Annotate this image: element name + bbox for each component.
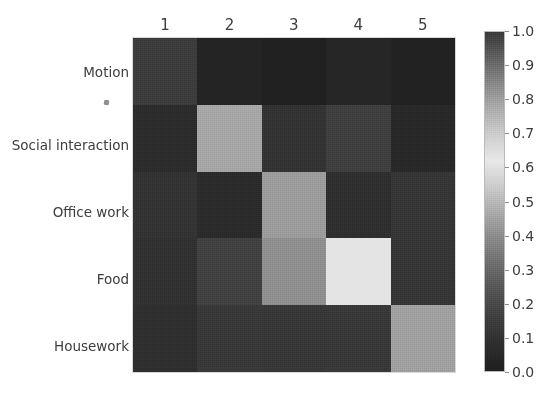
x-tick-2: 2 [197, 14, 261, 36]
colorbar-tick-label-0.7: 0.7 [512, 126, 534, 140]
x-tick-1: 1 [133, 14, 197, 36]
colorbar-tick-label-1.0: 1.0 [512, 24, 534, 38]
colorbar-tick-label-0.9: 0.9 [512, 58, 534, 72]
colorbar-tick-mark-0.5 [505, 202, 509, 203]
colorbar-tick-mark-0.9 [505, 65, 509, 66]
y-tick-social-interaction: Social interaction [0, 138, 129, 152]
heatmap-cell-r3c2 [197, 172, 261, 239]
stray-tick-artifact [104, 100, 110, 106]
heatmap-grid [133, 38, 455, 372]
colorbar-tick-label-0.1: 0.1 [512, 331, 534, 345]
y-tick-housework: Housework [0, 339, 129, 353]
y-axis-tick-labels: Motion Social interaction Office work Fo… [0, 38, 129, 372]
x-tick-3: 3 [262, 14, 326, 36]
colorbar-tick-mark-1.0 [505, 31, 509, 32]
heatmap-cell-r2c5 [391, 105, 455, 172]
heatmap-cell-r2c3 [262, 105, 326, 172]
colorbar-tick-mark-0.7 [505, 133, 509, 134]
colorbar-tick-mark-0.8 [505, 99, 509, 100]
heatmap-cell-r2c4 [326, 105, 390, 172]
colorbar-tick-label-0.4: 0.4 [512, 229, 534, 243]
heatmap-cell-r3c3 [262, 172, 326, 239]
heatmap-cell-r1c4 [326, 38, 390, 105]
heatmap-cell-r2c2 [197, 105, 261, 172]
colorbar [484, 31, 505, 372]
heatmap-cell-r4c2 [197, 238, 261, 305]
colorbar-tick-mark-0.6 [505, 167, 509, 168]
heatmap-cell-r1c3 [262, 38, 326, 105]
heatmap-figure: 1 2 3 4 5 Motion Social interaction Offi… [0, 0, 551, 397]
x-axis-tick-labels: 1 2 3 4 5 [133, 14, 455, 36]
heatmap-cell-r3c5 [391, 172, 455, 239]
colorbar-tick-label-0.6: 0.6 [512, 160, 534, 174]
heatmap-cell-r5c5 [391, 305, 455, 372]
colorbar-tick-mark-0.0 [505, 372, 509, 373]
heatmap-cell-r4c1 [133, 238, 197, 305]
heatmap-cell-r3c4 [326, 172, 390, 239]
y-tick-motion: Motion [0, 65, 129, 79]
heatmap-cell-r1c1 [133, 38, 197, 105]
heatmap-cell-r5c1 [133, 305, 197, 372]
heatmap-cell-r5c4 [326, 305, 390, 372]
x-tick-5: 5 [391, 14, 455, 36]
colorbar-tick-mark-0.1 [505, 338, 509, 339]
heatmap-cell-r1c5 [391, 38, 455, 105]
heatmap-cell-r2c1 [133, 105, 197, 172]
y-tick-food: Food [0, 272, 129, 286]
x-tick-4: 4 [326, 14, 390, 36]
colorbar-tick-label-0.8: 0.8 [512, 92, 534, 106]
colorbar-tick-mark-0.4 [505, 236, 509, 237]
heatmap-cell-r3c1 [133, 172, 197, 239]
colorbar-tick-label-0.3: 0.3 [512, 263, 534, 277]
colorbar-tick-mark-0.2 [505, 304, 509, 305]
heatmap-cell-r4c5 [391, 238, 455, 305]
colorbar-tick-label-0.5: 0.5 [512, 195, 534, 209]
heatmap-cell-r5c3 [262, 305, 326, 372]
y-tick-office-work: Office work [0, 205, 129, 219]
heatmap-cell-r4c4 [326, 238, 390, 305]
colorbar-tick-label-0.2: 0.2 [512, 297, 534, 311]
heatmap-cell-r4c3 [262, 238, 326, 305]
colorbar-gradient [484, 31, 505, 372]
colorbar-tick-mark-0.3 [505, 270, 509, 271]
colorbar-tick-labels: 1.00.90.80.70.60.50.40.30.20.10.0 [505, 31, 551, 372]
heatmap-cell-r5c2 [197, 305, 261, 372]
heatmap-cell-r1c2 [197, 38, 261, 105]
colorbar-tick-label-0.0: 0.0 [512, 365, 534, 379]
